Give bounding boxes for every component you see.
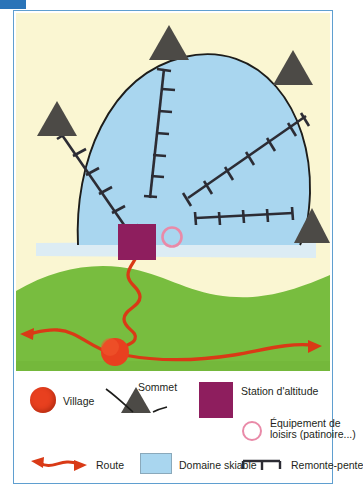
legend-lift-label: Remonte-pente [291,460,363,472]
legend-route-label: Route [96,460,124,472]
legend-summit-label: Sommet [138,382,177,394]
legend-village-icon [30,387,56,413]
legend-route-icon [28,451,90,477]
corner-tab [0,0,26,9]
map-svg [16,13,330,371]
legend-leisure-icon [242,421,262,441]
legend-skiable-icon [140,453,172,474]
legend-leisure-label-2: loisirs (patinoire...) [270,429,356,441]
map-panel [16,13,330,371]
legend-station-icon [199,382,233,418]
village-highlight [101,338,119,356]
legend-panel: Village Sommet Station d'altitude Équipe… [16,373,330,481]
legend-lift-icon [240,453,284,475]
station-altitude-marker [118,224,156,260]
valley-shadow [16,361,330,371]
legend-village-label: Village [63,396,94,408]
legend-station-label: Station d'altitude [241,386,318,398]
